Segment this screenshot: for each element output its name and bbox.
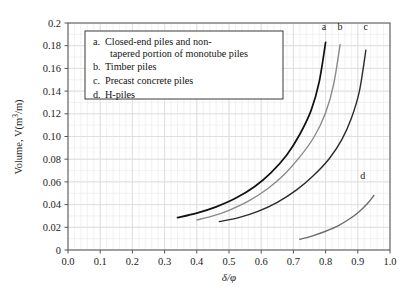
x-tick-label: 0.8	[319, 256, 332, 267]
chart-legend: a.Closed-end piles and non-tapered porti…	[85, 31, 283, 100]
curve-label-c: c	[364, 21, 369, 32]
curve-label-a: a	[322, 21, 327, 32]
y-tick-label: 0.10	[43, 131, 61, 142]
y-tick-label: 0.06	[43, 177, 61, 188]
legend-marker-0: a.	[93, 36, 100, 47]
chart-figure: 0.00.10.20.30.40.50.60.70.80.91.0 00.020…	[0, 0, 418, 292]
legend-label-0-0: Closed-end piles and non-	[105, 36, 212, 47]
y-tick-label: 0	[56, 245, 61, 256]
svg-text:δ/φ: δ/φ	[222, 271, 236, 283]
x-tick-label: 0.3	[158, 256, 171, 267]
y-tick-label: 0.08	[43, 154, 61, 165]
x-tick-label: 0.7	[287, 256, 300, 267]
legend-marker-1: b.	[93, 61, 101, 72]
legend-label-2-0: Precast concrete piles	[105, 75, 193, 86]
curve-label-d: d	[360, 170, 365, 181]
legend-label-1-0: Timber piles	[105, 61, 156, 72]
x-tick-label: 0.0	[61, 256, 74, 267]
y-tick-label: 0.18	[43, 40, 61, 51]
y-tick-label: 0.12	[43, 108, 61, 119]
x-tick-label: 0.9	[351, 256, 364, 267]
legend-marker-2: c.	[93, 75, 100, 86]
y-tick-label: 0.04	[43, 199, 62, 210]
x-tick-label: 1.0	[383, 256, 396, 267]
curve-label-b: b	[338, 21, 343, 32]
x-tick-label: 0.6	[255, 256, 268, 267]
y-axis-title: Volume, V(m3/m)	[11, 99, 26, 175]
x-tick-label: 0.2	[126, 256, 139, 267]
y-tick-label: 0.2	[48, 18, 61, 29]
x-tick-label: 0.5	[222, 256, 235, 267]
legend-marker-3: d.	[93, 89, 101, 100]
volume-vs-delta-phi-chart: 0.00.10.20.30.40.50.60.70.80.91.0 00.020…	[0, 0, 418, 292]
y-tick-label: 0.02	[43, 222, 61, 233]
x-tick-label: 0.4	[190, 256, 204, 267]
y-tick-label: 0.14	[43, 86, 62, 97]
x-tick-label: 0.1	[94, 256, 107, 267]
legend-label-0-1: tapered portion of monotube piles	[110, 48, 248, 59]
legend-label-3-0: H-piles	[105, 89, 135, 100]
y-tick-label: 0.16	[43, 63, 61, 74]
svg-text:Volume, V(m3/m): Volume, V(m3/m)	[11, 99, 26, 175]
x-axis-title: δ/φ	[222, 271, 236, 283]
